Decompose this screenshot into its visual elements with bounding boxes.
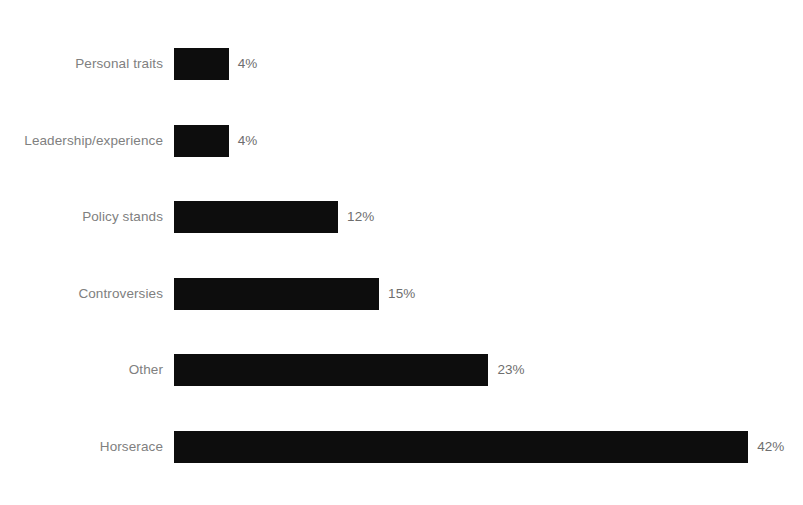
- bar-row: Policy stands12%: [0, 201, 803, 233]
- category-label: Other: [0, 354, 163, 386]
- bar-chart: Personal traits4%Leadership/experience4%…: [0, 0, 803, 505]
- category-label: Horserace: [0, 431, 163, 463]
- category-label: Leadership/experience: [0, 125, 163, 157]
- plot-area: Personal traits4%Leadership/experience4%…: [0, 0, 803, 505]
- bar-row: Leadership/experience4%: [0, 125, 803, 157]
- bar-value-label: 12%: [347, 201, 374, 233]
- bar: [174, 201, 338, 233]
- category-label: Policy stands: [0, 201, 163, 233]
- bar-row: Controversies15%: [0, 278, 803, 310]
- bar: [174, 354, 488, 386]
- bar-row: Other23%: [0, 354, 803, 386]
- bar-value-label: 4%: [238, 125, 258, 157]
- bar: [174, 278, 379, 310]
- bar: [174, 48, 229, 80]
- category-label: Personal traits: [0, 48, 163, 80]
- bar-value-label: 4%: [238, 48, 258, 80]
- bar-value-label: 42%: [757, 431, 784, 463]
- bar-value-label: 15%: [388, 278, 415, 310]
- bar-row: Personal traits4%: [0, 48, 803, 80]
- bar-value-label: 23%: [497, 354, 524, 386]
- bar: [174, 431, 748, 463]
- category-label: Controversies: [0, 278, 163, 310]
- bar: [174, 125, 229, 157]
- bar-row: Horserace42%: [0, 431, 803, 463]
